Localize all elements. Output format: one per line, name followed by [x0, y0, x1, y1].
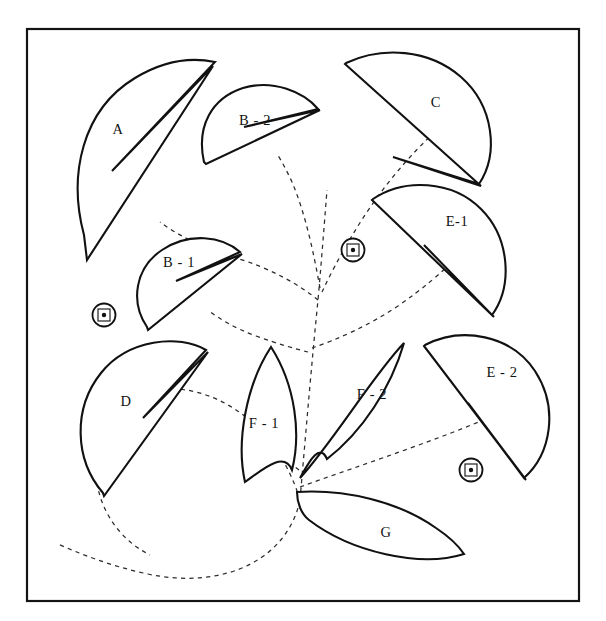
- leaf-F2: [300, 343, 404, 478]
- figure-canvas: AB - 2CB - 1E-1DF - 1F - 2E - 2G: [0, 0, 606, 621]
- shape-label-c: C: [431, 94, 441, 110]
- leaf-E2: [424, 335, 549, 480]
- marker-center-dot-icon: [469, 468, 473, 472]
- marker-left-icon: [93, 304, 116, 327]
- line-drawing-svg: AB - 2CB - 1E-1DF - 1F - 2E - 2G: [0, 0, 606, 621]
- shape-label-e2: E - 2: [486, 364, 517, 380]
- leaf-B1: [137, 238, 242, 330]
- leaf-C: [345, 53, 491, 186]
- shape-label-f2: F - 2: [357, 386, 387, 402]
- marker-center-icon: [342, 239, 365, 262]
- shape-label-g: G: [380, 524, 391, 540]
- shape-label-b1: B - 1: [163, 254, 195, 270]
- shape-label-b2: B - 2: [239, 112, 271, 128]
- marker-right-icon: [460, 459, 483, 482]
- stem-lower: [58, 500, 300, 578]
- shape-label-e1: E-1: [446, 213, 469, 229]
- leaf-D: [81, 341, 208, 496]
- marker-center-dot-icon: [102, 313, 106, 317]
- leaf-A: [78, 60, 215, 260]
- stem-to-B2: [277, 154, 320, 288]
- shape-label-a: A: [112, 121, 123, 137]
- shape-label-d: D: [120, 393, 131, 409]
- stem-to-E1: [312, 262, 452, 348]
- marker-center-dot-icon: [351, 248, 355, 252]
- shape-label-f1: F - 1: [249, 415, 279, 431]
- leaf-shape-group: [78, 53, 550, 560]
- leaf-E1: [372, 185, 506, 317]
- stem-to-B1: [208, 310, 308, 352]
